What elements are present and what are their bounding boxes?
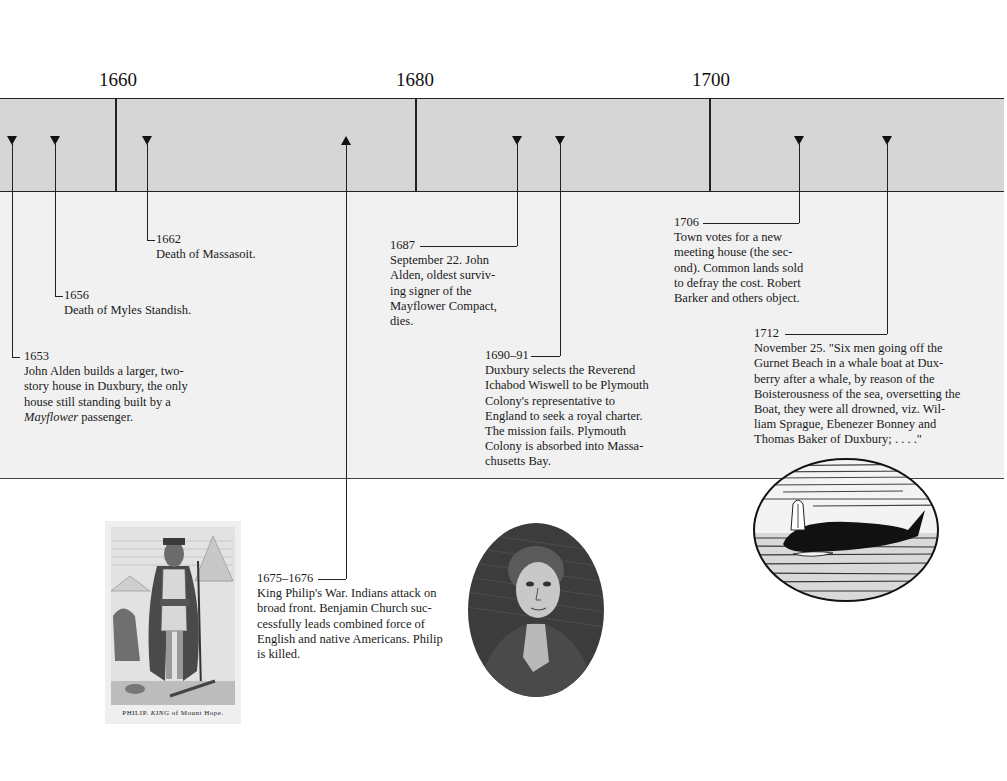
event-line: broad front. Benjamin Church suc- bbox=[257, 601, 467, 616]
event-1706: 1706 Town votes for a new meeting house … bbox=[674, 215, 824, 306]
event-year: 1662 bbox=[156, 232, 181, 247]
connector-1656 bbox=[55, 144, 56, 296]
event-line: Town votes for a new bbox=[674, 230, 824, 245]
event-1687: 1687 September 22. John Alden, oldest su… bbox=[390, 238, 530, 329]
connector-1653 bbox=[12, 144, 13, 357]
event-line: berry after a whale, by reason of the bbox=[754, 372, 969, 387]
caption-part: PHILIP. bbox=[122, 709, 148, 717]
event-line: liam Sprague, Ebenezer Bonney and bbox=[754, 417, 969, 432]
event-line: Thomas Baker of Duxbury; . . . ." bbox=[754, 432, 969, 447]
event-line: Boisterousness of the sea, oversetting t… bbox=[754, 387, 969, 402]
timeline-band bbox=[0, 98, 1004, 192]
divider-1680 bbox=[415, 98, 417, 192]
connector-1662-tick bbox=[147, 240, 155, 241]
portrait-icon bbox=[467, 522, 605, 698]
event-line: cessfully leads combined force of bbox=[257, 617, 467, 632]
event-line: to defray the cost. Robert bbox=[674, 276, 824, 291]
event-1690: 1690–91 Duxbury selects the Reverend Ich… bbox=[485, 348, 665, 470]
event-line: Duxbury selects the Reverend bbox=[485, 363, 665, 378]
whale-icon bbox=[753, 458, 939, 603]
year-label-1660: 1660 bbox=[99, 69, 137, 91]
event-line: meeting house (the sec- bbox=[674, 245, 824, 260]
event-line: Alden, oldest surviv- bbox=[390, 268, 530, 283]
divider-1700 bbox=[709, 98, 711, 192]
event-1675: 1675–1676 King Philip's War. Indians att… bbox=[257, 571, 467, 662]
king-philip-caption: PHILIP. KING of Mount Hope. bbox=[105, 709, 241, 717]
event-line: ond). Common lands sold bbox=[674, 261, 824, 276]
event-line: Colony's representative to bbox=[485, 394, 665, 409]
event-year: 1675–1676 bbox=[257, 571, 313, 586]
event-text: Death of Massasoit. bbox=[156, 247, 356, 262]
king-philip-engraving: PHILIP. KING of Mount Hope. bbox=[105, 521, 241, 724]
event-line: chusetts Bay. bbox=[485, 454, 665, 469]
event-year: 1656 bbox=[64, 288, 89, 303]
connector-1712 bbox=[887, 144, 888, 334]
caption-part: KING bbox=[151, 709, 170, 717]
connector-1687 bbox=[517, 144, 518, 246]
event-1656: 1656 Death of Myles Standish. bbox=[64, 288, 264, 318]
connector-1662 bbox=[147, 144, 148, 240]
event-line: King Philip's War. Indians attack on bbox=[257, 586, 467, 601]
year-label-1680: 1680 bbox=[396, 69, 434, 91]
event-line: Gurnet Beach in a whale boat at Dux- bbox=[754, 356, 969, 371]
caption-part: of Mount Hope. bbox=[172, 709, 224, 717]
event-italic: Mayflower bbox=[24, 410, 78, 424]
event-line: September 22. John bbox=[390, 253, 530, 268]
event-line: is killed. bbox=[257, 647, 467, 662]
event-line: England to seek a royal charter. bbox=[485, 409, 665, 424]
event-line: Barker and others object. bbox=[674, 291, 824, 306]
connector-1653-tick bbox=[12, 357, 20, 358]
whale-engraving bbox=[753, 458, 939, 603]
event-line: Boat, they were all drowned, viz. Wil- bbox=[754, 402, 969, 417]
event-1662: 1662 Death of Massasoit. bbox=[156, 232, 356, 262]
event-1653: 1653 John Alden builds a larger, two- st… bbox=[24, 349, 224, 425]
event-line: The mission fails. Plymouth bbox=[485, 424, 665, 439]
event-text: Death of Myles Standish. bbox=[64, 303, 264, 318]
event-year: 1687 bbox=[390, 238, 415, 253]
event-line: ing signer of the bbox=[390, 284, 530, 299]
event-year: 1653 bbox=[24, 349, 49, 364]
event-line: story house in Duxbury, the only bbox=[24, 379, 224, 394]
connector-1675 bbox=[346, 144, 347, 579]
event-line: November 25. "Six men going off the bbox=[754, 341, 969, 356]
event-line: Mayflower passenger. bbox=[24, 410, 224, 425]
event-line: John Alden builds a larger, two- bbox=[24, 364, 224, 379]
event-year: 1690–91 bbox=[485, 348, 529, 363]
event-text: passenger. bbox=[78, 410, 133, 424]
connector-1690 bbox=[560, 144, 561, 356]
event-year: 1706 bbox=[674, 215, 699, 230]
event-line: Colony is absorbed into Massa- bbox=[485, 439, 665, 454]
connector-1656-tick bbox=[55, 296, 63, 297]
event-line: dies. bbox=[390, 314, 530, 329]
king-philip-figure-icon bbox=[105, 521, 241, 724]
event-1712: 1712 November 25. "Six men going off the… bbox=[754, 326, 969, 448]
year-label-1700: 1700 bbox=[692, 69, 730, 91]
event-line: house still standing built by a bbox=[24, 395, 224, 410]
event-line: Mayflower Compact, bbox=[390, 299, 530, 314]
oval-portrait-engraving bbox=[467, 522, 605, 698]
connector-1706 bbox=[799, 144, 800, 223]
divider-1660 bbox=[115, 98, 117, 192]
event-line: Ichabod Wiswell to be Plymouth bbox=[485, 378, 665, 393]
event-year: 1712 bbox=[754, 326, 779, 341]
event-line: English and native Americans. Philip bbox=[257, 632, 467, 647]
